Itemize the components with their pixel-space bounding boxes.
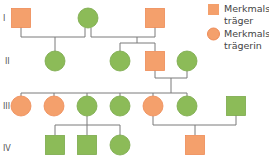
generation-label-IV: IV (3, 144, 11, 153)
legend-female-label-line2: trägerin (224, 40, 262, 51)
male-affected-square-IV-4 (186, 136, 205, 155)
male-unaffected-square-III-7 (227, 97, 246, 116)
male-affected-square-I-3 (146, 9, 165, 28)
female-unaffected-circle-II-2 (110, 51, 130, 71)
union-line-I2-I3 (91, 27, 155, 37)
legend-male-label-line1: Merkmals- (224, 3, 269, 14)
male-affected-square-I-1 (12, 9, 31, 28)
female-affected-circle-III-1 (11, 96, 31, 116)
female-unaffected-circle-II-4 (177, 51, 197, 71)
male-affected-square-II-3 (146, 52, 165, 71)
female-affected-circle-III-2 (44, 96, 64, 116)
sibship-line-IV (55, 125, 120, 135)
generation-label-III: III (3, 102, 10, 111)
female-unaffected-circle-III-6 (177, 96, 197, 116)
union-line-III5-III7 (153, 115, 236, 125)
legend-affected-female-circle-icon (208, 28, 220, 40)
pedigree-chart: I II III IV Merkmals- träger Merkmals- t… (0, 0, 269, 161)
legend: Merkmals- träger Merkmals- trägerin (208, 3, 270, 51)
union-line-II3-II4 (155, 70, 187, 78)
female-unaffected-circle-I-2 (78, 8, 98, 28)
legend-male-label-line2: träger (224, 15, 253, 26)
female-unaffected-circle-IV-3 (110, 135, 130, 155)
pedigree-lines (21, 27, 236, 135)
female-unaffected-circle-III-3 (77, 96, 97, 116)
male-unaffected-square-IV-1 (46, 136, 65, 155)
male-unaffected-square-IV-2 (78, 136, 97, 155)
sibship-line-II2-II3 (120, 43, 155, 51)
legend-female-label-line1: Merkmals- (224, 28, 269, 39)
union-line-I1-I2 (21, 27, 85, 37)
generation-label-I: I (3, 14, 5, 23)
sibship-line-III (21, 93, 187, 96)
generation-label-II: II (5, 57, 10, 66)
female-unaffected-circle-III-4 (110, 96, 130, 116)
female-affected-circle-III-5 (143, 96, 163, 116)
legend-affected-male-square-icon (208, 4, 219, 15)
female-unaffected-circle-II-1 (45, 51, 65, 71)
